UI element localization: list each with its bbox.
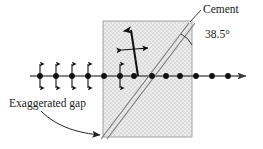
dot-marker [163, 73, 169, 79]
figure-container: Cement 38.5° Exaggerated gap [0, 0, 263, 149]
exaggerated-gap-label: Exaggerated gap [9, 98, 86, 110]
lattice-dot [85, 64, 91, 88]
dot-marker [101, 73, 107, 79]
cement-leader [190, 10, 201, 22]
dot-marker [209, 73, 215, 79]
cement-label: Cement [203, 4, 239, 16]
dot-marker [225, 73, 231, 79]
dot-marker [149, 73, 155, 79]
lattice-dot [37, 64, 43, 88]
dot-marker [53, 73, 59, 79]
angle-label: 38.5° [205, 29, 230, 41]
lattice-dot [53, 64, 59, 88]
cement-leader-line [190, 10, 201, 22]
gap-leader-arrow [41, 111, 100, 135]
dot-marker [37, 73, 43, 79]
dot-marker [177, 73, 183, 79]
diagram-canvas [0, 0, 263, 149]
dot-marker [69, 73, 75, 79]
dot-marker [131, 73, 137, 79]
lattice-dot [69, 64, 75, 88]
dot-marker [85, 73, 91, 79]
dot-marker [117, 73, 123, 79]
dot-marker [193, 73, 199, 79]
gap-leader [41, 111, 100, 135]
lattice-dot [101, 73, 107, 79]
